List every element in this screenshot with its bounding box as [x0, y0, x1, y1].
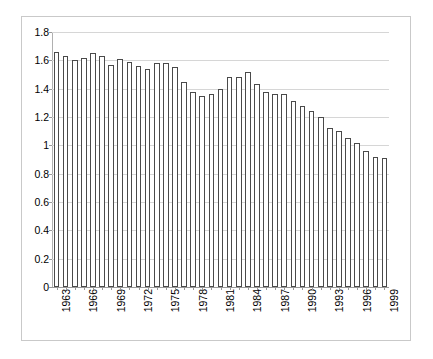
y-axis-tick: [49, 60, 52, 61]
x-axis-tick-label: 1990: [307, 289, 318, 312]
bar: [382, 158, 388, 287]
bar: [272, 94, 278, 287]
x-axis-tick: [184, 287, 185, 290]
y-axis-tick-label: 1.8: [34, 27, 49, 38]
x-axis-tick: [120, 287, 121, 290]
bar: [190, 92, 196, 288]
bar: [373, 157, 379, 287]
x-axis-tick: [375, 287, 376, 290]
bar: [117, 59, 123, 287]
y-axis-tick: [49, 202, 52, 203]
x-axis-tick: [75, 287, 76, 290]
bar: [154, 63, 160, 287]
bar: [291, 101, 297, 287]
y-axis-tick-label: 1.2: [34, 112, 49, 123]
x-axis-tick: [257, 287, 258, 290]
bar-chart: 00.20.40.60.811.21.41.61.8 1963196619691…: [0, 0, 433, 359]
bar: [127, 62, 133, 287]
bar: [145, 69, 151, 287]
bar: [199, 96, 205, 287]
x-axis-tick-label: 1999: [389, 289, 400, 312]
x-axis-tick: [366, 287, 367, 290]
y-axis-labels: 00.20.40.60.811.21.41.61.8: [21, 32, 49, 287]
bar: [363, 151, 369, 287]
x-axis-tick: [84, 287, 85, 290]
bar: [327, 128, 333, 287]
y-axis-tick: [49, 32, 52, 33]
x-axis-tick: [248, 287, 249, 290]
bar: [81, 58, 87, 288]
bar: [99, 56, 105, 287]
x-axis-tick-label: 1996: [362, 289, 373, 312]
x-axis-tick: [302, 287, 303, 290]
y-axis-tick: [49, 89, 52, 90]
x-axis-tick: [129, 287, 130, 290]
y-axis-tick: [49, 230, 52, 231]
x-axis-tick-label: 1984: [252, 289, 263, 312]
y-axis-tick: [49, 174, 52, 175]
bar: [245, 72, 251, 287]
bar: [318, 117, 324, 287]
x-axis-tick: [166, 287, 167, 290]
x-axis-tick: [275, 287, 276, 290]
bar: [281, 94, 287, 287]
bar: [354, 143, 360, 288]
x-axis-labels: 1963196619691972197519781981198419871990…: [52, 289, 389, 341]
x-axis-tick: [93, 287, 94, 290]
x-axis-tick: [357, 287, 358, 290]
bar: [172, 67, 178, 287]
x-axis-tick: [384, 287, 385, 290]
bar: [163, 63, 169, 287]
x-axis-tick: [193, 287, 194, 290]
x-axis-tick: [66, 287, 67, 290]
bar: [54, 52, 60, 287]
x-axis-tick: [139, 287, 140, 290]
y-axis-tick: [49, 259, 52, 260]
y-axis-tick: [49, 145, 52, 146]
bar-series: [52, 32, 389, 287]
x-axis-tick-label: 1993: [334, 289, 345, 312]
x-axis-tick-label: 1972: [143, 289, 154, 312]
x-axis-tick-label: 1978: [198, 289, 209, 312]
x-axis-tick: [211, 287, 212, 290]
x-axis-tick: [284, 287, 285, 290]
y-axis-tick-label: 0.2: [34, 253, 49, 264]
x-axis-tick: [339, 287, 340, 290]
plot-area: [52, 32, 389, 287]
x-axis-tick: [175, 287, 176, 290]
x-axis-tick: [157, 287, 158, 290]
y-axis-tick-label: 0.8: [34, 168, 49, 179]
y-axis-tick-label: 0.4: [34, 225, 49, 236]
bar: [309, 111, 315, 287]
x-axis-tick: [321, 287, 322, 290]
bar: [345, 138, 351, 287]
x-axis-tick-label: 1969: [116, 289, 127, 312]
x-axis-tick: [266, 287, 267, 290]
bar: [90, 53, 96, 287]
y-axis-tick-label: 0.6: [34, 197, 49, 208]
x-axis-tick: [221, 287, 222, 290]
bar: [108, 65, 114, 287]
bar: [181, 82, 187, 287]
x-axis-tick: [102, 287, 103, 290]
y-axis-tick: [49, 287, 52, 288]
bar: [63, 56, 69, 287]
bar: [236, 77, 242, 287]
x-axis-tick: [293, 287, 294, 290]
y-axis-tick-label: 1.6: [34, 55, 49, 66]
bar: [72, 60, 78, 287]
x-axis-tick-label: 1975: [170, 289, 181, 312]
x-axis-tick-label: 1981: [225, 289, 236, 312]
x-axis-tick: [202, 287, 203, 290]
x-axis-tick: [312, 287, 313, 290]
bar: [300, 106, 306, 287]
x-axis-tick-label: 1966: [88, 289, 99, 312]
bar: [209, 94, 215, 287]
x-axis-tick: [57, 287, 58, 290]
x-axis-tick-label: 1963: [61, 289, 72, 312]
y-axis-tick-label: 1.4: [34, 83, 49, 94]
bar: [254, 84, 260, 287]
x-axis-tick: [230, 287, 231, 290]
y-axis-tick: [49, 117, 52, 118]
x-axis-tick: [330, 287, 331, 290]
